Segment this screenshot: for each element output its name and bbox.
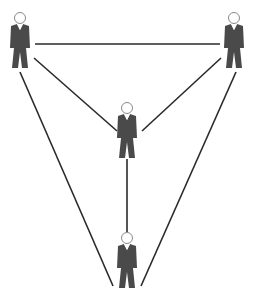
person-icon (224, 13, 244, 69)
edge-top-left-bottom (20, 72, 113, 286)
person-icon (117, 233, 137, 289)
person-center (117, 103, 137, 159)
person-icon (10, 13, 30, 69)
person-top-left (10, 13, 30, 69)
person-top-right (224, 13, 244, 69)
person-bottom (117, 233, 137, 289)
edge-top-right-bottom (141, 72, 236, 286)
network-diagram (0, 0, 257, 296)
edge-top-left-center (34, 58, 117, 131)
person-icon (117, 103, 137, 159)
edge-top-right-center (142, 58, 221, 131)
